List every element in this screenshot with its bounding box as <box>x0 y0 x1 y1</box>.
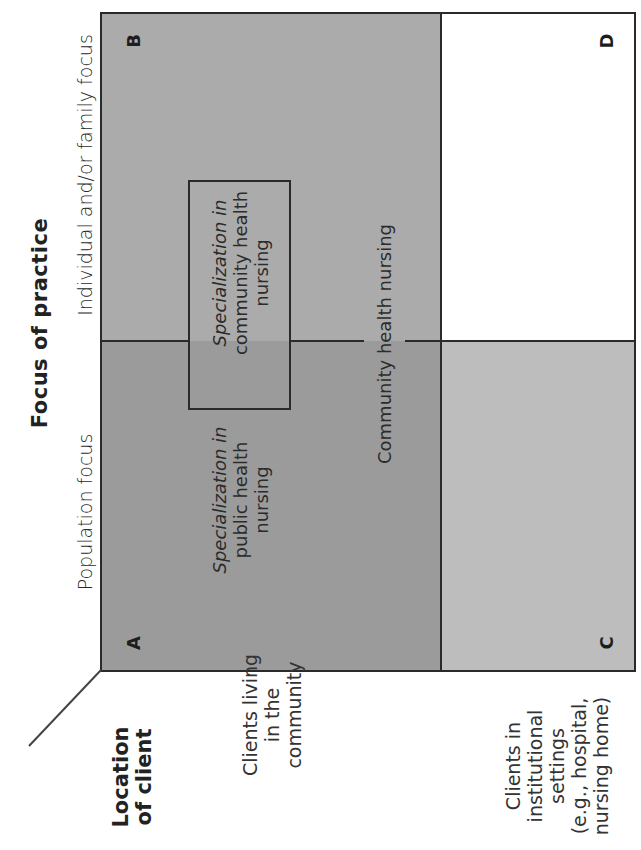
specialization-italic: Specialization in <box>209 200 230 347</box>
specialization-rest: public health nursing <box>230 442 272 559</box>
location-of-client-title: Locationof client <box>110 726 156 827</box>
community-health-specialization-label: Specialization incommunity health nursin… <box>209 191 272 355</box>
location-title-line2: of client <box>132 729 156 826</box>
specialization-italic: Specialization in <box>209 427 230 574</box>
location-title-line1: Location <box>109 726 133 827</box>
quadrant-letter-b: B <box>123 34 144 48</box>
quadrant-letter-d: D <box>596 34 617 49</box>
community-health-nursing-label: Community health nursing <box>374 224 395 464</box>
focus-of-practice-title: Focus of practice <box>28 218 52 428</box>
specialization-rest: community health nursing <box>230 191 272 355</box>
row-label-community: Clients living in the community <box>239 654 305 776</box>
column-label-population: Population focus <box>74 434 96 591</box>
row-label-institutional: Clients in institutional settings (e.g.,… <box>502 697 612 836</box>
column-label-individual: Individual and/or family focus <box>74 34 96 316</box>
quadrant-letter-c: C <box>596 636 617 649</box>
public-health-specialization-label: Specialization inpublic health nursing <box>209 427 272 574</box>
quadrant-letter-a: A <box>123 636 144 650</box>
